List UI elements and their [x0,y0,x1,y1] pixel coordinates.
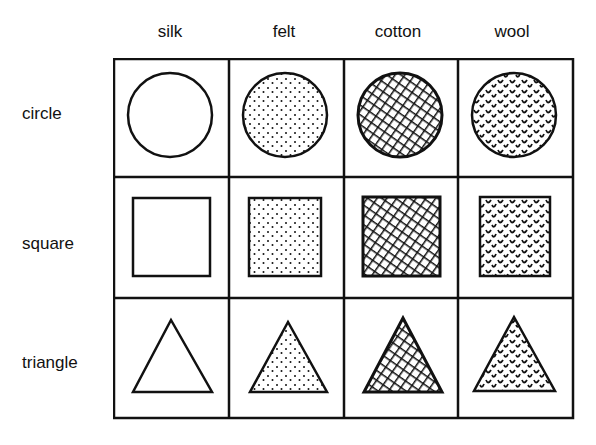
triangle-felt [250,322,327,392]
square-cotton [363,197,440,276]
circle-silk [128,73,212,157]
triangle-silk [133,320,212,392]
column-label-wool: wool [455,22,569,42]
row-label-circle: circle [22,104,62,124]
square-wool [480,197,550,276]
row-label-triangle: triangle [22,353,78,373]
triangle-wool [474,317,555,391]
circle-wool [472,73,556,157]
column-label-cotton: cotton [341,22,455,42]
triangle-cotton [364,318,442,392]
column-label-silk: silk [113,22,227,42]
square-felt [249,198,321,276]
column-label-felt: felt [227,22,341,42]
circle-cotton [358,73,442,157]
square-silk [133,198,210,276]
circle-felt [243,73,327,157]
shape-texture-grid [113,58,575,420]
row-label-square: square [22,234,74,254]
